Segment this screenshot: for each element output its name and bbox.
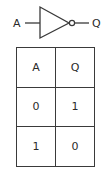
table-row: 1 0: [17, 127, 95, 167]
input-label: A: [13, 18, 21, 29]
truth-table: A Q 0 1 1 0: [16, 47, 95, 167]
gate-triangle: [40, 7, 69, 38]
cell-a: 0: [17, 87, 56, 127]
inversion-bubble: [69, 20, 74, 25]
cell-q: 1: [56, 87, 95, 127]
header-cell-q: Q: [56, 48, 95, 88]
cell-q: 0: [56, 127, 95, 167]
output-label: Q: [92, 18, 101, 29]
table-row: 0 1: [17, 87, 95, 127]
table-header-row: A Q: [17, 48, 95, 88]
header-cell-a: A: [17, 48, 56, 88]
cell-a: 1: [17, 127, 56, 167]
